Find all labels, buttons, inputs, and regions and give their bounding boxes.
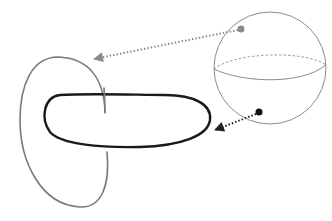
gray-arrow bbox=[94, 30, 238, 59]
gray-point bbox=[238, 26, 245, 33]
black-loop bbox=[45, 94, 211, 147]
diagram-svg bbox=[0, 0, 332, 221]
sphere bbox=[214, 12, 326, 124]
gray-loop bbox=[20, 57, 108, 207]
black-point bbox=[256, 109, 263, 116]
black-arrow bbox=[215, 114, 256, 130]
diagram-canvas bbox=[0, 0, 332, 221]
